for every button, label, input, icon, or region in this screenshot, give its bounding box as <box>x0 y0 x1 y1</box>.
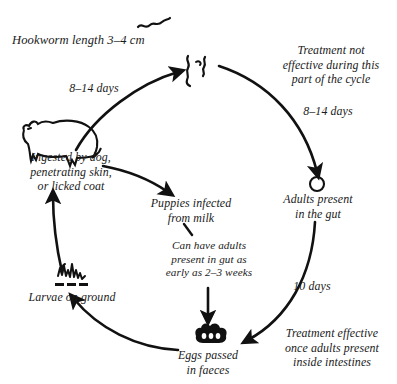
arrow-eggs-to-larvae <box>74 299 178 350</box>
caption-early-adults-note: Can have adults present in gut as early … <box>152 239 266 280</box>
eggs-icon <box>195 324 226 343</box>
stage-label-puppies: Puppies infected from milk <box>138 196 244 225</box>
caption-treatment-effective: Treatment effective once adults present … <box>270 326 394 370</box>
larvae-icon <box>55 264 88 286</box>
stage-label-larvae: Larvae on ground <box>13 290 131 305</box>
hookworm-icon-top <box>138 18 170 27</box>
hookworm-life-cycle-diagram: Hookworm length 3–4 cm Treatment not eff… <box>0 0 397 384</box>
arrow-label-dog-to-worms: 8–14 days <box>52 81 136 96</box>
stage-label-adults-gut: Adults present in the gut <box>272 192 364 221</box>
circle-icon-adults <box>310 177 324 191</box>
caption-treatment-not-effective: Treatment not effective during this part… <box>270 43 392 87</box>
hookworm-icon-cycle <box>187 56 205 86</box>
arrow-larvae-to-dog <box>53 196 62 272</box>
connector-puppies-to-note <box>184 224 192 235</box>
stage-label-eggs: Eggs passed in faeces <box>164 348 252 377</box>
stage-label-dog: Ingested by dog, penetrating skin, or li… <box>10 150 132 194</box>
arrow-label-worms-to-adults: 8–14 days <box>288 104 368 119</box>
arrow-label-adults-to-eggs: 10 days <box>279 279 345 294</box>
caption-hookworm-length: Hookworm length 3–4 cm <box>12 33 145 48</box>
